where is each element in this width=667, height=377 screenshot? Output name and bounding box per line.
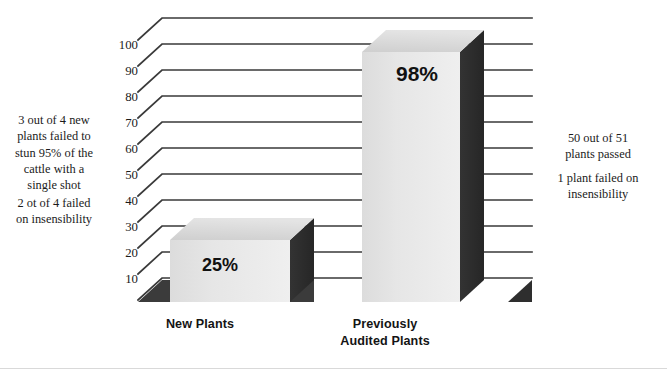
- annotation-left-new-plants-insensibility: 2 ot of 4 failed on insensibility: [2, 195, 106, 228]
- bar-new-plants-top: [170, 218, 314, 240]
- y-axis-tick-20: 20: [100, 247, 138, 260]
- bar-audited-plants-front: [362, 52, 460, 302]
- annotation-right-audited-insensibility: 1 plant failed on insensibility: [530, 170, 666, 203]
- y-axis-tick-10: 10: [100, 273, 138, 286]
- y-axis-tick-100: 100: [100, 39, 138, 52]
- floor-right-wedge: [508, 280, 532, 302]
- bar-chart: 100 90 80 70 60 50 40 30 20 10 25% 98% N…: [0, 0, 667, 377]
- annotation-left-2-line1: 2 ot of 4 failed: [2, 195, 106, 211]
- annotation-left-1-line4: cattle with a: [2, 161, 106, 177]
- annotation-left-2-line2: on insensibility: [2, 211, 106, 227]
- footer-divider: [0, 368, 667, 369]
- annotation-left-new-plants-stunning: 3 out of 4 new plants failed to stun 95%…: [2, 112, 106, 193]
- category-label-audited-plants-line1: Previously: [300, 316, 470, 333]
- bar-value-new-plants: 25%: [172, 255, 268, 276]
- y-axis-tick-80: 80: [100, 91, 138, 104]
- floor-left-wedge: [138, 280, 162, 302]
- annotation-left-1-line1: 3 out of 4 new: [2, 112, 106, 128]
- category-label-audited-plants: Previously Audited Plants: [300, 316, 470, 350]
- y-axis-tick-90: 90: [100, 65, 138, 78]
- annotation-left-1-line2: plants failed to: [2, 128, 106, 144]
- annotation-left-1-line5: single shot: [2, 177, 106, 193]
- annotation-right-1-line2: plants passed: [530, 146, 666, 162]
- category-label-new-plants-line1: New Plants: [130, 316, 270, 333]
- category-label-audited-plants-line2: Audited Plants: [300, 333, 470, 350]
- annotation-right-audited-passed: 50 out of 51 plants passed: [530, 130, 666, 163]
- bar-value-audited-plants: 98%: [362, 62, 472, 86]
- annotation-right-1-line1: 50 out of 51: [530, 130, 666, 146]
- annotation-right-2-line1: 1 plant failed on: [530, 170, 666, 186]
- category-label-new-plants: New Plants: [130, 316, 270, 333]
- annotation-right-2-line2: insensibility: [530, 186, 666, 202]
- annotation-left-1-line3: stun 95% of the: [2, 145, 106, 161]
